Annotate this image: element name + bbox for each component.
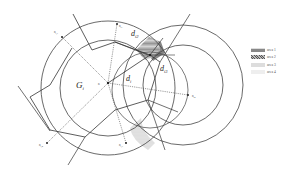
legend-item-area-3: area 3 (251, 61, 297, 69)
center-node (107, 82, 109, 84)
node-left-top-label: ni,1 (54, 30, 59, 35)
area-4-swatch (251, 70, 265, 74)
legend: area 1 area 2 area 3 area 4 (251, 46, 297, 76)
d-i3-label: di3 (160, 64, 168, 74)
node-top-label: ni1 (119, 24, 123, 29)
voronoi-diagram: Gi di di2 di3 n ni1 ni,1 ni,4 ni,3 ni2 (0, 0, 297, 169)
node-bottom-left-label: ni,4 (39, 143, 44, 148)
center-label: n (98, 82, 100, 86)
area-2-swatch (251, 55, 265, 59)
area-3-swatch (251, 63, 265, 67)
d-i-label: di (126, 74, 132, 84)
area-1-swatch (251, 48, 265, 52)
d-i2-label: di2 (131, 29, 139, 39)
legend-item-area-4: area 4 (251, 69, 297, 77)
legend-item-area-2: area 2 (251, 54, 297, 62)
legend-item-area-1: area 1 (251, 46, 297, 54)
cell-label: Gi (76, 80, 85, 91)
node-right-label: ni2 (192, 94, 196, 99)
node-bottom-label: ni,3 (119, 143, 124, 148)
